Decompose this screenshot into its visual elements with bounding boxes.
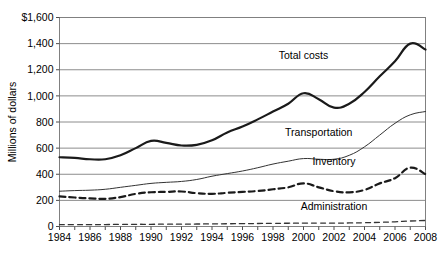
y-axis-title: Millions of dollars <box>6 82 18 163</box>
x-tick-label: 1984 <box>48 231 72 243</box>
x-tick-label: 2008 <box>414 231 438 243</box>
x-tick-label: 1988 <box>109 231 133 243</box>
y-tick-label: 400 <box>36 168 54 180</box>
x-tick-label: 1986 <box>78 231 102 243</box>
y-tick-label: 800 <box>36 116 54 128</box>
x-tick-label: 2006 <box>383 231 407 243</box>
y-tick-label: 200 <box>36 194 54 206</box>
logistics-costs-chart: $1,6001,4001,2001,0008006004002000 19841… <box>0 0 439 254</box>
x-axis-ticks <box>60 227 426 231</box>
y-tick-label: $1,600 <box>21 11 53 23</box>
series-label-transportation: Transportation <box>285 126 352 138</box>
series-label-administration: Administration <box>301 200 368 212</box>
x-tick-label: 1996 <box>231 231 255 243</box>
x-tick-label: 1994 <box>200 231 224 243</box>
x-tick-label: 2004 <box>353 231 377 243</box>
y-axis-ticks <box>56 18 60 227</box>
y-axis-tick-labels: $1,6001,4001,2001,0008006004002000 <box>21 11 53 232</box>
x-tick-label: 1990 <box>139 231 163 243</box>
x-tick-label: 1998 <box>261 231 285 243</box>
y-tick-label: 600 <box>36 142 54 154</box>
y-tick-label: 1,400 <box>27 37 53 49</box>
x-axis-tick-labels: 1984198619881990199219941996199820002002… <box>48 231 438 243</box>
x-tick-label: 2000 <box>292 231 316 243</box>
y-tick-label: 1,000 <box>27 90 53 102</box>
chart-canvas: $1,6001,4001,2001,0008006004002000 19841… <box>0 0 439 254</box>
series-label-inventory: Inventory <box>312 155 356 167</box>
x-tick-label: 2002 <box>322 231 346 243</box>
x-tick-label: 1992 <box>170 231 194 243</box>
y-tick-label: 1,200 <box>27 63 53 75</box>
plot-frame <box>60 18 426 227</box>
series-label-total-costs: Total costs <box>279 49 329 61</box>
